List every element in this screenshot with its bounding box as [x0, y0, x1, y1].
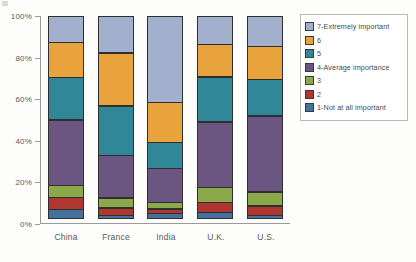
y-axis-tick: [35, 182, 40, 183]
bar-segment[interactable]: [247, 116, 283, 193]
y-axis-tick-label: 20%: [15, 178, 32, 187]
plot-area: 0%20%40%60%80%100%: [40, 16, 290, 224]
chart-root: 0%20%40%60%80%100% ChinaFranceIndiaU.K.U…: [0, 0, 416, 262]
legend-item[interactable]: 5: [305, 47, 403, 61]
bar-segment[interactable]: [197, 16, 233, 45]
y-axis-tick: [35, 58, 40, 59]
x-axis-label: U.K.: [198, 232, 234, 242]
legend-swatch-icon: [305, 22, 314, 31]
bar-segment[interactable]: [98, 106, 134, 156]
bar-column-china[interactable]: [48, 16, 84, 223]
y-axis-tick-label: 60%: [15, 95, 32, 104]
y-axis-tick: [35, 99, 40, 100]
bar-segment[interactable]: [147, 16, 183, 103]
legend-item[interactable]: 1-Not at all important: [305, 101, 403, 115]
x-axis-label: France: [98, 232, 134, 242]
legend-swatch-icon: [305, 63, 314, 72]
y-axis-tick: [35, 16, 40, 17]
bar-column-france[interactable]: [98, 16, 134, 223]
corner-mark: [2, 1, 8, 6]
x-axis-label: U.S.: [248, 232, 284, 242]
bar-segment[interactable]: [247, 79, 283, 116]
bar-segment[interactable]: [197, 77, 233, 123]
bar-column-india[interactable]: [147, 16, 183, 223]
legend-item[interactable]: 6: [305, 34, 403, 48]
x-axis-labels: ChinaFranceIndiaU.K.U.S.: [41, 232, 291, 242]
bar-segment[interactable]: [197, 44, 233, 77]
legend-label: 7-Extremely important: [317, 22, 389, 31]
x-axis-label: China: [48, 232, 84, 242]
legend-label: 6: [317, 36, 321, 45]
y-axis-tick-label: 80%: [15, 53, 32, 62]
legend-swatch-icon: [305, 36, 314, 45]
bar-column-uk[interactable]: [197, 16, 233, 223]
bar-segment[interactable]: [197, 212, 233, 219]
bar-segment[interactable]: [48, 42, 84, 77]
legend-swatch-icon: [305, 90, 314, 99]
bar-segment[interactable]: [48, 77, 84, 120]
bar-segment[interactable]: [197, 187, 233, 203]
legend-swatch-icon: [305, 76, 314, 85]
x-axis-label: India: [148, 232, 184, 242]
bar-segment[interactable]: [147, 213, 183, 219]
legend-item[interactable]: 2: [305, 88, 403, 102]
bar-segment[interactable]: [147, 102, 183, 142]
y-axis-tick: [35, 224, 40, 225]
bar-segment[interactable]: [48, 209, 84, 219]
y-axis-tick-label: 0%: [20, 220, 32, 229]
bar-segment[interactable]: [98, 215, 134, 219]
bar-segment[interactable]: [98, 16, 134, 53]
bar-segment[interactable]: [48, 16, 84, 43]
bar-segment[interactable]: [247, 46, 283, 79]
bar-segment[interactable]: [197, 122, 233, 188]
bar-segment[interactable]: [247, 192, 283, 206]
bar-group: [41, 16, 290, 223]
legend-item[interactable]: 7-Extremely important: [305, 20, 403, 34]
legend-swatch-icon: [305, 49, 314, 58]
y-axis-tick-label: 40%: [15, 136, 32, 145]
bar-segment[interactable]: [98, 155, 134, 198]
bar-segment[interactable]: [247, 215, 283, 219]
legend-label: 5: [317, 49, 321, 58]
legend-label: 2: [317, 90, 321, 99]
legend-label: 4-Average importance: [317, 63, 390, 72]
bar-segment[interactable]: [247, 16, 283, 47]
bar-segment[interactable]: [147, 142, 183, 169]
legend-label: 1-Not at all important: [317, 103, 386, 112]
chart-legend: 7-Extremely important654-Average importa…: [300, 14, 408, 121]
legend-swatch-icon: [305, 103, 314, 112]
y-axis-tick-label: 100%: [11, 12, 32, 21]
bar-segment[interactable]: [48, 185, 84, 197]
bar-segment[interactable]: [48, 197, 84, 209]
x-axis-line: [40, 223, 290, 224]
legend-label: 3: [317, 76, 321, 85]
bar-column-us[interactable]: [247, 16, 283, 223]
bar-segment[interactable]: [147, 168, 183, 202]
y-axis-tick: [35, 141, 40, 142]
bar-segment[interactable]: [98, 53, 134, 107]
legend-item[interactable]: 4-Average importance: [305, 61, 403, 75]
bar-segment[interactable]: [48, 120, 84, 186]
legend-item[interactable]: 3: [305, 74, 403, 88]
